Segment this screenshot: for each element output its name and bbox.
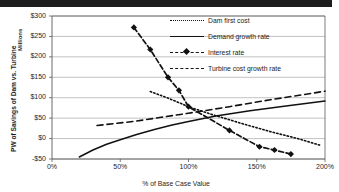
legend-swatch	[168, 15, 206, 25]
legend-swatch	[168, 47, 206, 57]
legend-line-sample	[170, 68, 204, 69]
series-marker	[288, 151, 294, 157]
legend-label: Demand growth rate	[206, 33, 270, 40]
legend-marker-sample	[183, 48, 190, 55]
series-marker	[256, 144, 262, 150]
legend-line-sample	[170, 36, 204, 37]
legend-label: Turbine cost growth rate	[206, 65, 281, 72]
legend-item: Dam first cost	[168, 12, 318, 28]
series-line-demand-growth-rate	[79, 101, 325, 157]
legend-swatch	[168, 31, 206, 41]
legend-swatch	[168, 63, 206, 73]
legend-item: Interest rate	[168, 44, 318, 60]
series-marker	[271, 147, 277, 153]
legend-line-sample	[170, 20, 204, 21]
legend-item: Turbine cost growth rate	[168, 60, 318, 76]
chart-legend: Dam first costDemand growth rateInterest…	[168, 12, 318, 76]
legend-label: Interest rate	[206, 49, 244, 56]
legend-item: Demand growth rate	[168, 28, 318, 44]
legend-label: Dam first cost	[206, 17, 250, 24]
